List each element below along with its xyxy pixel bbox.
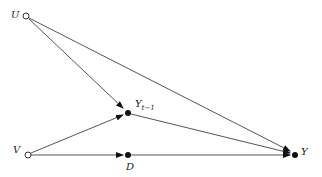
causal-diagram: U V Yt−1 D Y [0, 0, 322, 177]
edge-v-to-ylag [31, 115, 123, 153]
node-v [25, 152, 31, 158]
label-u: U [11, 9, 20, 20]
node-y [292, 152, 298, 158]
edge-u-to-y [29, 18, 290, 151]
edge-ylag-to-y [131, 114, 290, 153]
label-y: Y [301, 146, 309, 157]
label-ylag: Yt−1 [135, 98, 155, 112]
node-ylag [125, 110, 131, 116]
edge-u-to-ylag [29, 19, 123, 108]
node-u [23, 13, 29, 19]
label-v: V [13, 144, 22, 155]
node-d [125, 152, 131, 158]
label-d: D [125, 161, 134, 172]
